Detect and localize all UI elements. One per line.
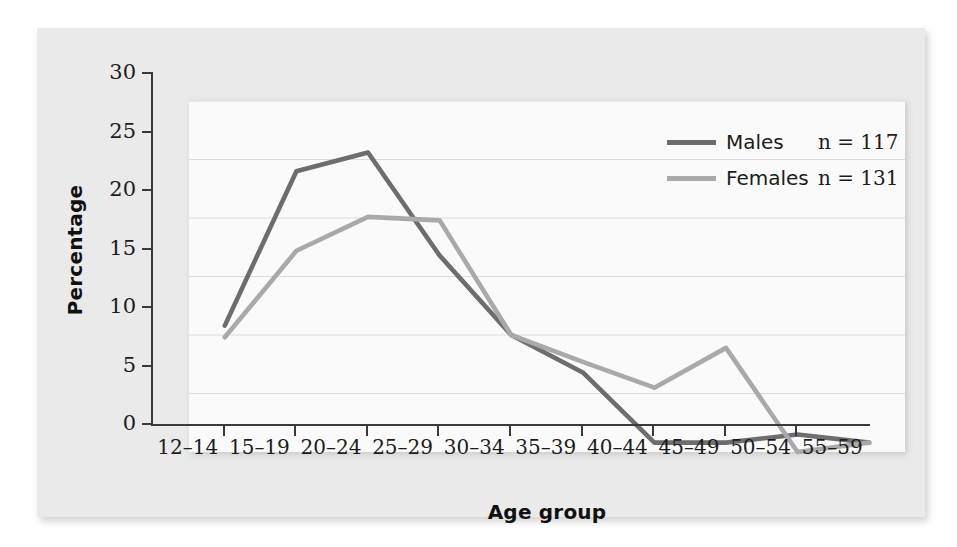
- y-tick-label: 15: [109, 238, 136, 259]
- y-tick-label: 30: [109, 62, 136, 83]
- x-tick-mark: [509, 426, 511, 436]
- x-tick-mark: [223, 426, 225, 436]
- x-tick-label: 25–29: [367, 437, 439, 457]
- series-line-females: [225, 217, 869, 452]
- x-tick-label: 45–49: [653, 437, 725, 457]
- legend-label-males: Males: [726, 130, 818, 154]
- chart-legend: Males n = 117 Females n = 131: [667, 124, 899, 196]
- chart-figure: Males n = 117 Females n = 131 Percentage…: [0, 0, 957, 547]
- y-tick-mark: [142, 72, 151, 74]
- x-tick-label: 20–24: [295, 437, 367, 457]
- y-tick-mark: [142, 423, 151, 425]
- legend-swatch-males: [667, 140, 716, 145]
- legend-item-males: Males n = 117: [667, 124, 899, 160]
- y-tick-label: 0: [123, 413, 136, 434]
- x-tick-mark: [581, 426, 583, 436]
- x-axis-title: Age group: [189, 500, 905, 524]
- y-tick-mark: [142, 306, 151, 308]
- x-tick-mark: [294, 426, 296, 436]
- x-tick-label: 50–54: [725, 437, 797, 457]
- y-tick-mark: [142, 365, 151, 367]
- legend-count-males: n = 117: [818, 130, 899, 154]
- x-tick-label: 35–39: [510, 437, 582, 457]
- x-tick-mark: [724, 426, 726, 436]
- legend-item-females: Females n = 131: [667, 160, 899, 196]
- x-tick-mark: [795, 426, 797, 436]
- x-tick-label: 15–19: [224, 437, 296, 457]
- x-tick-label: 55–59: [796, 437, 868, 457]
- x-tick-mark: [652, 426, 654, 436]
- y-tick-label: 5: [123, 355, 136, 376]
- legend-swatch-females: [667, 176, 716, 181]
- y-axis-line: [151, 72, 153, 426]
- y-tick-mark: [142, 131, 151, 133]
- y-tick-label: 10: [109, 296, 136, 317]
- y-tick-label: 25: [109, 121, 136, 142]
- y-tick-label: 20: [109, 179, 136, 200]
- x-tick-label: 30–34: [438, 437, 510, 457]
- y-axis-tick-labels: 051015202530: [78, 0, 136, 547]
- x-tick-mark: [366, 426, 368, 436]
- y-tick-mark: [142, 189, 151, 191]
- x-tick-label: 12–14: [152, 437, 224, 457]
- x-tick-label: 40–44: [582, 437, 654, 457]
- x-tick-mark: [437, 426, 439, 436]
- series-line-males: [225, 152, 869, 442]
- legend-label-females: Females: [726, 166, 818, 190]
- y-tick-mark: [142, 248, 151, 250]
- legend-count-females: n = 131: [818, 166, 899, 190]
